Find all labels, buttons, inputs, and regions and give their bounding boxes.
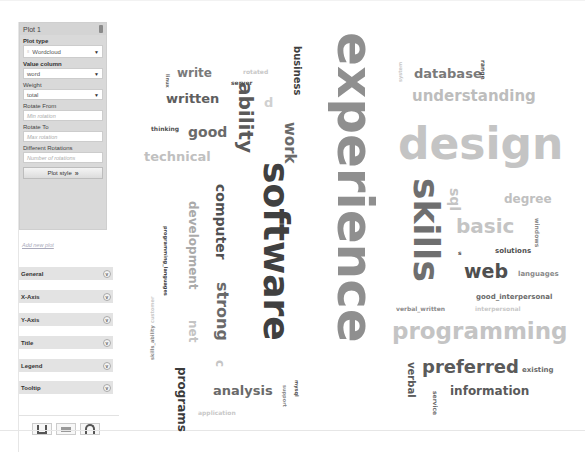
expand-icon[interactable]: ∨ bbox=[103, 270, 111, 278]
section-tooltip[interactable]: Tooltip ∨ bbox=[19, 381, 113, 394]
weight-label: Weight bbox=[20, 79, 106, 89]
rotate-to-placeholder: Max rotation bbox=[27, 134, 57, 140]
word-design[interactable]: design bbox=[398, 122, 563, 166]
word-system[interactable]: system bbox=[398, 62, 403, 82]
word-web[interactable]: web bbox=[464, 262, 508, 281]
word-c[interactable]: c bbox=[214, 360, 226, 367]
plot-type-value: Wordcloud bbox=[32, 49, 61, 55]
expand-icon[interactable]: ∨ bbox=[103, 384, 111, 392]
expand-icon[interactable]: ∨ bbox=[103, 293, 111, 301]
word-good[interactable]: good bbox=[188, 125, 227, 139]
word-programming-languages[interactable]: programming_languages bbox=[163, 226, 168, 296]
chevron-down-icon: ▼ bbox=[94, 92, 99, 98]
weight-select[interactable]: total ▼ bbox=[23, 89, 103, 100]
wordcloud-chart: experiencesoftwaredesignskillsprogrammin… bbox=[130, 10, 585, 430]
word-net[interactable]: net bbox=[187, 320, 199, 342]
plot-style-label: Plot style bbox=[47, 170, 71, 176]
word-service[interactable]: service bbox=[432, 391, 438, 415]
word-preferred[interactable]: preferred bbox=[422, 358, 519, 376]
word-support[interactable]: support bbox=[282, 385, 287, 407]
word-interpersonal[interactable]: interpersonal bbox=[475, 306, 521, 312]
word-ability[interactable]: ability bbox=[236, 82, 256, 153]
section-title[interactable]: Title ∨ bbox=[19, 336, 113, 349]
rotate-from-placeholder: Min rotation bbox=[27, 113, 56, 119]
plot-type-select[interactable]: ≡ Wordcloud ▼ bbox=[23, 45, 103, 58]
plot-panel: Plot 1 Plot type ≡ Wordcloud ▼ Value col… bbox=[19, 22, 107, 230]
word-skills-ability[interactable]: skills_ability bbox=[150, 325, 155, 360]
word-mysql[interactable]: mysql bbox=[294, 380, 299, 397]
word-analysis[interactable]: analysis bbox=[213, 384, 273, 397]
expand-icon[interactable]: ∨ bbox=[103, 316, 111, 324]
export-csv-button[interactable] bbox=[56, 423, 76, 435]
word-programs[interactable]: programs bbox=[176, 367, 188, 432]
word-server[interactable]: server bbox=[231, 80, 253, 86]
app-window: Plot 1 Plot type ≡ Wordcloud ▼ Value col… bbox=[0, 0, 585, 452]
sidebar-divider bbox=[19, 415, 119, 416]
word-technical[interactable]: technical bbox=[144, 150, 211, 163]
plot-title: Plot 1 bbox=[23, 26, 41, 33]
rotate-to-label: Rotate To bbox=[20, 121, 106, 131]
word-programming[interactable]: programming bbox=[392, 320, 568, 343]
value-column-select[interactable]: word ▼ bbox=[23, 68, 103, 79]
word-sql[interactable]: sql bbox=[448, 188, 462, 211]
section-label: Tooltip bbox=[21, 385, 41, 391]
section-x-axis[interactable]: X-Axis ∨ bbox=[19, 290, 113, 303]
word-application[interactable]: application bbox=[198, 410, 236, 416]
word-understanding[interactable]: understanding bbox=[412, 89, 536, 104]
word-windows[interactable]: windows bbox=[534, 218, 540, 247]
save-button[interactable] bbox=[32, 423, 52, 435]
expand-icon[interactable]: ∨ bbox=[103, 339, 111, 347]
bottom-border bbox=[0, 430, 585, 431]
chevron-down-icon: ▼ bbox=[94, 49, 99, 55]
word-customer[interactable]: customer bbox=[150, 297, 155, 323]
wordcloud-icon: ≡ bbox=[27, 49, 29, 54]
word-verbal-written[interactable]: verbal_written bbox=[396, 306, 445, 312]
word-degree[interactable]: degree bbox=[504, 193, 552, 205]
word-existing[interactable]: existing bbox=[522, 367, 554, 374]
section-y-axis[interactable]: Y-Axis ∨ bbox=[19, 313, 113, 326]
refresh-button[interactable] bbox=[80, 423, 100, 435]
word-computer[interactable]: computer bbox=[214, 184, 228, 260]
expand-icon[interactable]: ∨ bbox=[103, 362, 111, 370]
section-label: X-Axis bbox=[21, 294, 40, 300]
word-strong[interactable]: strong bbox=[214, 282, 230, 341]
word-good-interpersonal[interactable]: good_interpersonal bbox=[476, 294, 552, 301]
word-information[interactable]: information bbox=[450, 385, 529, 397]
word-business[interactable]: business bbox=[292, 46, 302, 95]
word-linux[interactable]: linux bbox=[165, 74, 170, 88]
word-rotated[interactable]: rotated bbox=[243, 69, 268, 75]
chevron-down-icon: ▼ bbox=[94, 71, 99, 77]
section-general[interactable]: General ∨ bbox=[19, 267, 113, 280]
word-write[interactable]: write bbox=[177, 67, 212, 79]
word-verbal[interactable]: verbal bbox=[406, 362, 416, 398]
word-d[interactable]: d bbox=[264, 96, 273, 109]
section-legend[interactable]: Legend ∨ bbox=[19, 359, 113, 372]
value-column-value: word bbox=[27, 71, 40, 77]
plot-type-label: Plot type bbox=[20, 35, 106, 45]
top-border bbox=[0, 0, 585, 1]
section-label: Y-Axis bbox=[21, 317, 39, 323]
word-software[interactable]: software bbox=[258, 162, 294, 341]
plot-style-button[interactable]: Plot style » bbox=[23, 167, 103, 179]
word-languages[interactable]: languages bbox=[518, 271, 559, 278]
word-skills[interactable]: skills bbox=[408, 178, 444, 282]
word-work[interactable]: work bbox=[282, 122, 297, 164]
word-solutions[interactable]: solutions bbox=[495, 248, 531, 255]
different-rotations-input[interactable]: Number of rotations bbox=[23, 152, 103, 163]
different-rotations-label: Different Rotations bbox=[20, 142, 106, 152]
word-experience[interactable]: experience bbox=[330, 32, 380, 343]
word-development[interactable]: development bbox=[187, 201, 199, 290]
word-s[interactable]: s bbox=[458, 250, 462, 256]
delete-plot-icon[interactable] bbox=[99, 25, 103, 33]
different-rotations-placeholder: Number of rotations bbox=[27, 155, 75, 161]
word-thinking[interactable]: thinking bbox=[151, 126, 179, 132]
section-label: General bbox=[21, 271, 43, 277]
word-database[interactable]: database bbox=[414, 67, 482, 80]
rotate-to-input[interactable]: Max rotation bbox=[23, 131, 103, 142]
word-range[interactable]: range bbox=[480, 60, 486, 80]
section-label: Legend bbox=[21, 363, 42, 369]
word-written[interactable]: written bbox=[166, 92, 219, 105]
add-new-plot-link[interactable]: Add new plot bbox=[22, 242, 54, 248]
rotate-from-input[interactable]: Min rotation bbox=[23, 110, 103, 121]
word-basic[interactable]: basic bbox=[456, 216, 514, 236]
